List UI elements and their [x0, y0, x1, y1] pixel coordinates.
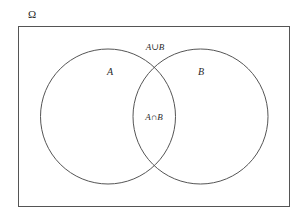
venn-diagram: Ω A B A∪B A∩B [0, 0, 306, 218]
set-a-label: A [106, 66, 114, 77]
set-b-label: B [198, 66, 204, 77]
union-label: A∪B [145, 42, 165, 52]
intersection-label: A∩B [144, 112, 163, 122]
universe-label: Ω [28, 8, 36, 20]
